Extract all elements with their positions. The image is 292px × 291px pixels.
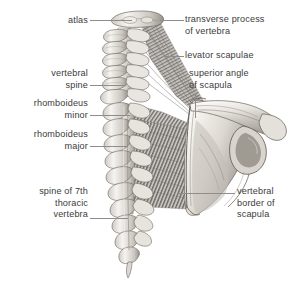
label-vertebral-border-of-scapula: vertebral border of scapula [237, 186, 292, 221]
label-superior-angle-of-scapula: superior angle of scapula [189, 68, 289, 91]
cervical-vertebrae [100, 28, 150, 104]
leader-vertebral-spine [90, 85, 126, 86]
leader-spine-7th-thoracic [90, 218, 128, 219]
label-spine-of-7th-thoracic-vertebra: spine of 7th thoracic vertebra [10, 186, 88, 221]
label-levator-scapulae: levator scapulae [185, 50, 289, 62]
leader-superior-angle [195, 93, 196, 118]
leader-rhomboideus-major [90, 146, 128, 147]
leader-vertebral-border [178, 193, 235, 194]
leader-rhomboideus-minor [90, 115, 130, 116]
label-rhomboideus-major: rhomboideus major [4, 129, 88, 152]
label-atlas: atlas [20, 15, 88, 27]
leader-atlas [90, 20, 132, 21]
leader-transverse-process [160, 20, 184, 21]
anatomical-figure: atlas vertebral spine rhomboideus minor … [0, 0, 292, 291]
label-transverse-process-of-vertebra: transverse process of vertebra [185, 14, 289, 37]
leader-levator-scapulae [162, 56, 184, 57]
label-rhomboideus-minor: rhomboideus minor [4, 98, 88, 121]
label-vertebral-spine: vertebral spine [8, 68, 88, 91]
